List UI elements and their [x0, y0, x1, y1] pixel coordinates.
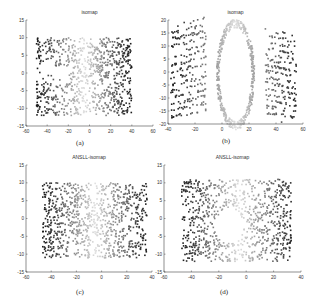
svg-text:10: 10 [19, 35, 25, 40]
figure: -60-40-200204060-15-10-5051015isomap(a)-… [0, 0, 313, 308]
svg-text:-20: -20 [65, 129, 72, 134]
svg-text:-5: -5 [158, 234, 163, 239]
svg-text:40: 40 [129, 129, 135, 134]
subplot-caption: (d) [220, 288, 229, 296]
svg-text:40: 40 [149, 275, 155, 280]
svg-text:40: 40 [298, 275, 304, 280]
svg-text:0: 0 [88, 129, 91, 134]
svg-text:5: 5 [159, 198, 162, 203]
svg-text:0: 0 [21, 71, 24, 76]
svg-text:-15: -15 [155, 270, 162, 275]
svg-text:-20: -20 [159, 122, 166, 127]
svg-text:20: 20 [124, 275, 130, 280]
subplot-title: ANSLL-isomap [72, 154, 106, 160]
scatter-points [181, 179, 292, 263]
svg-text:20: 20 [108, 129, 114, 134]
svg-text:20: 20 [246, 127, 252, 132]
svg-text:5: 5 [163, 57, 166, 62]
svg-text:-20: -20 [73, 275, 80, 280]
svg-text:0: 0 [163, 70, 166, 75]
svg-text:0: 0 [159, 216, 162, 221]
svg-text:15: 15 [19, 18, 25, 23]
axes: -60-40-2002040-15-10-5051015 [155, 163, 304, 280]
svg-text:0: 0 [21, 216, 24, 221]
svg-text:15: 15 [157, 163, 163, 168]
svg-text:-40: -40 [48, 275, 55, 280]
svg-text:-60: -60 [161, 275, 168, 280]
svg-text:-40: -40 [44, 129, 51, 134]
svg-text:-15: -15 [17, 270, 24, 275]
svg-text:-40: -40 [165, 127, 172, 132]
svg-text:40: 40 [273, 127, 279, 132]
scatter-points [170, 17, 297, 131]
svg-text:-10: -10 [17, 252, 24, 257]
svg-text:20: 20 [271, 275, 277, 280]
subplot-title: isomap [81, 9, 97, 15]
svg-text:60: 60 [300, 127, 306, 132]
svg-text:10: 10 [19, 180, 25, 185]
svg-text:5: 5 [21, 198, 24, 203]
svg-text:-60: -60 [23, 275, 30, 280]
svg-text:10: 10 [161, 44, 167, 49]
svg-text:-40: -40 [188, 275, 195, 280]
svg-text:0: 0 [100, 275, 103, 280]
svg-text:0: 0 [221, 127, 224, 132]
figure-canvas: -60-40-200204060-15-10-5051015isomap(a)-… [0, 0, 313, 308]
svg-text:20: 20 [161, 18, 167, 23]
svg-text:-5: -5 [20, 234, 25, 239]
svg-text:15: 15 [161, 31, 167, 36]
svg-text:-10: -10 [155, 252, 162, 257]
svg-text:15: 15 [19, 163, 25, 168]
svg-text:-10: -10 [17, 106, 24, 111]
subplot-caption: (c) [76, 288, 84, 296]
subplot-d: -60-40-2002040-15-10-5051015ANSLL-isomap… [155, 154, 304, 296]
svg-text:-10: -10 [159, 96, 166, 101]
subplot-c: -60-40-2002040-15-10-5051015ANSLL-isomap… [17, 154, 155, 296]
svg-text:-5: -5 [20, 88, 25, 93]
svg-text:60: 60 [150, 129, 156, 134]
subplot-caption: (b) [222, 137, 231, 145]
subplot-b: -40-200204060-20-15-10-505101520isomap(b… [159, 9, 306, 145]
svg-text:-5: -5 [162, 83, 167, 88]
svg-text:-20: -20 [192, 127, 199, 132]
svg-text:-20: -20 [215, 275, 222, 280]
svg-text:10: 10 [157, 180, 163, 185]
svg-text:-15: -15 [159, 109, 166, 114]
svg-text:5: 5 [21, 53, 24, 58]
svg-text:-60: -60 [23, 129, 30, 134]
subplot-title: ANSLL-isomap [216, 154, 250, 160]
axes: -60-40-2002040-15-10-5051015 [17, 163, 155, 280]
subplot-a: -60-40-200204060-15-10-5051015isomap(a) [17, 9, 156, 147]
subplot-caption: (a) [76, 139, 84, 147]
scatter-points [42, 182, 148, 258]
svg-text:-15: -15 [17, 124, 24, 129]
svg-text:0: 0 [245, 275, 248, 280]
subplot-title: isomap [227, 9, 243, 15]
scatter-points [36, 37, 133, 116]
